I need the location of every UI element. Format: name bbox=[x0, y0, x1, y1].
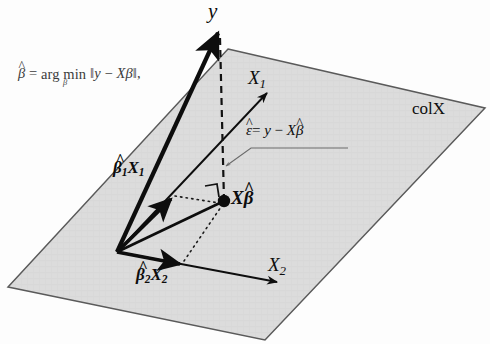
label-residual-equation: ^ε= y − X^β bbox=[246, 123, 303, 138]
formula-argmin: arg minβ bbox=[41, 67, 86, 82]
xbeta-hat-group: ^β bbox=[244, 188, 254, 207]
beta2-subscript: 2 bbox=[145, 273, 151, 286]
label-beta1-x1: ^β1X1 bbox=[113, 159, 145, 179]
formula-y: y bbox=[94, 65, 101, 81]
projection-point-dot bbox=[218, 195, 230, 207]
beta2-hat-group: ^β2 bbox=[136, 266, 151, 286]
formula-beta-hat: ^β bbox=[18, 66, 25, 81]
label-x-beta-hat: X^β bbox=[231, 188, 253, 207]
residual-eps-hat-group: ^ε bbox=[246, 123, 252, 138]
figure-canvas: ^β = arg minβ ‖y − Xβ‖, y X1 X2 ^β1X1 ^β… bbox=[0, 0, 490, 344]
label-x1-subscript: 1 bbox=[260, 76, 266, 91]
x1-subscript: 1 bbox=[139, 166, 145, 179]
beta1-subscript: 1 bbox=[122, 166, 128, 179]
label-y-vector: y bbox=[208, 1, 217, 22]
formula-equals: = bbox=[29, 65, 37, 81]
label-beta2-x2: ^β2X2 bbox=[136, 266, 168, 286]
label-x2-vector: X2 bbox=[268, 255, 286, 278]
label-x1-vector: X1 bbox=[248, 68, 266, 91]
objective-formula: ^β = arg minβ ‖y − Xβ‖, bbox=[18, 66, 141, 82]
formula-argmin-subscript: β bbox=[63, 78, 67, 87]
formula-x-beta: Xβ bbox=[116, 65, 132, 81]
projection-diagram bbox=[0, 0, 490, 344]
x2-subscript: 2 bbox=[162, 273, 168, 286]
formula-minus: − bbox=[104, 65, 112, 81]
label-column-space: colX bbox=[412, 100, 445, 117]
beta1-hat-group: ^β1 bbox=[113, 159, 128, 179]
label-x2-subscript: 2 bbox=[280, 263, 286, 278]
residual-beta-hat-group: ^β bbox=[296, 123, 303, 138]
formula-comma: , bbox=[137, 65, 141, 81]
